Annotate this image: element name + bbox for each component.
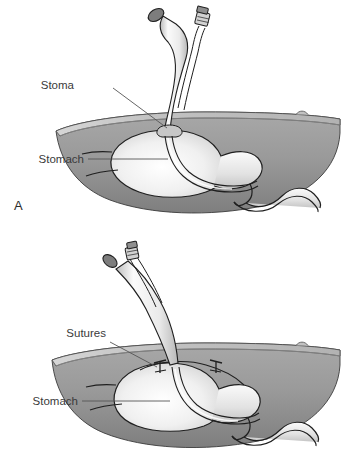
label-stomach: Stomach — [39, 153, 84, 165]
panel-b: Sutures Stomach B — [0, 237, 356, 473]
umbilicus — [296, 342, 308, 345]
panel-a: Stoma Stomach A — [0, 0, 356, 236]
label-sutures: Sutures — [66, 327, 106, 339]
panel-a-illustration: Stoma Stomach — [0, 0, 356, 236]
figure-sheet: Stoma Stomach A — [0, 0, 356, 473]
tube-capped-port — [194, 6, 210, 27]
panel-a-letter: A — [14, 198, 23, 213]
umbilicus — [296, 111, 308, 114]
stomach — [114, 363, 222, 431]
label-stomach: Stomach — [33, 395, 78, 407]
tube-open-end — [100, 252, 119, 270]
tube-capped-port — [125, 241, 139, 260]
label-stoma: Stoma — [41, 79, 75, 91]
panel-b-illustration: Sutures Stomach — [0, 237, 356, 473]
stoma-collar — [157, 125, 182, 137]
